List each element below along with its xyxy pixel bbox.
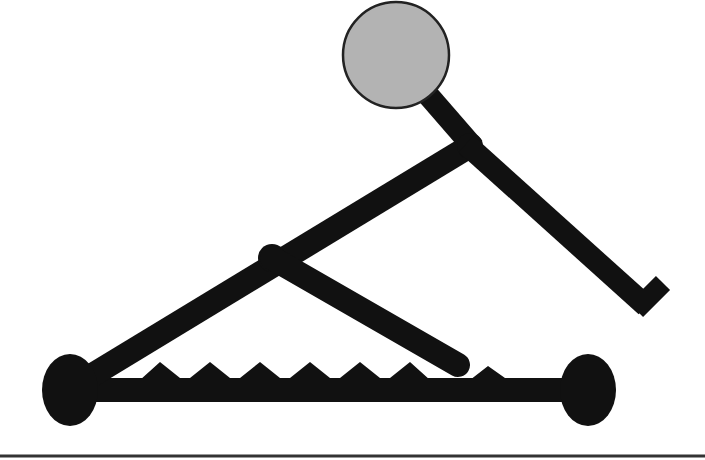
left-wheel	[42, 354, 98, 426]
leg	[466, 144, 646, 306]
right-wheel	[560, 354, 616, 426]
head	[343, 2, 449, 108]
rowing-figure-diagram: Rowing stick figure on sliding seat appa…	[0, 0, 705, 460]
strut	[272, 258, 458, 365]
